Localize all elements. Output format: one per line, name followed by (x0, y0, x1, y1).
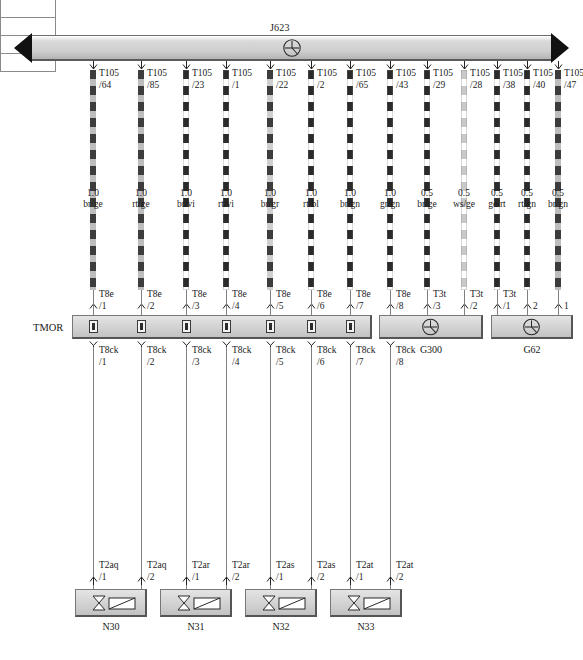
tmor-output-name: T8ck (317, 345, 337, 356)
lower-connector-pin: /2 (147, 301, 154, 312)
lower-connector-pin: /1 (99, 301, 106, 312)
top-connector-pin: /38 (503, 80, 515, 91)
injector-connector-name: T2ar (232, 560, 250, 571)
tmor-output-wire (93, 347, 94, 589)
wire-rt/vi (223, 70, 229, 290)
injector-connector-name: T2as (317, 560, 335, 571)
lower-connector-pin: /8 (396, 301, 403, 312)
top-connector-pin: /85 (147, 80, 159, 91)
tmor-output-pin: /4 (232, 357, 239, 368)
injector-connector-pin: /2 (147, 572, 154, 583)
ground-splice-icon (420, 317, 441, 337)
wire-color: rt/vi (204, 199, 248, 210)
connector-stub (558, 290, 559, 315)
tmor-contact[interactable] (222, 320, 231, 333)
connector-stub (93, 290, 94, 315)
top-connector-pin: /29 (433, 80, 445, 91)
wire-ge/rt (494, 70, 500, 290)
tmor-output-name: T8ck (276, 345, 296, 356)
tmor-output-wire (186, 347, 187, 589)
top-connector-name: T105 (564, 68, 583, 79)
wire-rt/ge (138, 70, 144, 290)
connector-stub (186, 290, 187, 315)
top-connector-pin: /28 (470, 80, 482, 91)
top-connector-pin: /64 (99, 80, 111, 91)
lower-connector-pin: /5 (276, 301, 283, 312)
top-connector-name: T105 (192, 68, 212, 79)
injector-connector-name: T2aq (147, 560, 167, 571)
tmor-output-pin: /2 (147, 357, 154, 368)
wire-gauge: 1.0 (250, 188, 290, 199)
connector-stub (390, 290, 391, 315)
top-connector-pin: /2 (317, 80, 324, 91)
lower-connector-name: T3t (470, 289, 483, 300)
connector-stub (497, 290, 498, 315)
wire-gauge: 1.0 (291, 188, 331, 199)
top-connector-name: T105 (232, 68, 252, 79)
tmor-contact[interactable] (137, 320, 146, 333)
tmor-output-name: T8ck (147, 345, 167, 356)
ground-splice-icon (281, 38, 303, 58)
top-connector-name: T105 (317, 68, 337, 79)
wire-color: br/gn (536, 199, 580, 210)
top-connector-name: T105 (533, 68, 553, 79)
tmor-contact[interactable] (307, 320, 316, 333)
lower-connector-pin: /4 (232, 301, 239, 312)
tmor-output-wire (141, 347, 142, 589)
lower-connector-pin: /3 (192, 301, 199, 312)
tmor-label: TMOR (33, 322, 63, 333)
injector-internal-trace (0, 0, 56, 18)
wire-gauge: 1.0 (166, 188, 206, 199)
connector-stub (270, 290, 271, 315)
bus-tap-arrow-icon (307, 61, 316, 70)
bus-tap-arrow-icon (423, 61, 432, 70)
tmor-output-pin: /7 (356, 357, 363, 368)
bus-left-arrow-icon (14, 33, 32, 63)
bus-right-arrow-icon (551, 33, 569, 63)
injector-pin-arrow-icon (266, 576, 275, 585)
injector-connector-pin: /1 (356, 572, 363, 583)
tmor-output-name: T8ck (232, 345, 252, 356)
tmor-contact[interactable] (346, 320, 355, 333)
tmor-output-name: T8ck (99, 345, 119, 356)
wire-rt/bl (308, 70, 314, 290)
ground-label-g300: G300 (379, 344, 483, 355)
injector-connector-pin: /1 (99, 572, 106, 583)
top-connector-pin: /1 (232, 80, 239, 91)
top-connector-pin: /43 (396, 80, 408, 91)
lower-connector-name: T8e (99, 289, 114, 300)
tmor-contact[interactable] (89, 320, 98, 333)
wire-br/gn (347, 70, 353, 290)
injector-connector-pin: /1 (192, 572, 199, 583)
top-connector-pin: /22 (276, 80, 288, 91)
injector-valve-icon (89, 594, 139, 613)
bus-tap-arrow-icon (554, 61, 563, 70)
wire-br/vi (183, 70, 189, 290)
top-connector-name: T105 (503, 68, 523, 79)
injector-pin-arrow-icon (89, 576, 98, 585)
tmor-output-wire (390, 347, 391, 589)
injector-connector-name: T2as (276, 560, 294, 571)
injector-connector-pin: /1 (276, 572, 283, 583)
tmor-contact[interactable] (266, 320, 275, 333)
bus-tap-arrow-icon (460, 61, 469, 70)
tmor-contact[interactable] (182, 320, 191, 333)
bus-tap-arrow-icon (523, 61, 532, 70)
bus-tap-arrow-icon (137, 61, 146, 70)
top-connector-name: T105 (433, 68, 453, 79)
tmor-output-wire (226, 347, 227, 589)
tmor-output-name: T8ck (192, 345, 212, 356)
top-connector-name: T105 (470, 68, 490, 79)
wire-gauge: 1.0 (121, 188, 161, 199)
top-connector-pin: /23 (192, 80, 204, 91)
wire-gr/gn (387, 70, 393, 290)
injector-connector-pin: /2 (396, 572, 403, 583)
tmor-output-pin: /1 (99, 357, 106, 368)
tmor-output-wire (311, 347, 312, 589)
injector-connector-pin: /2 (232, 572, 239, 583)
top-connector-name: T105 (147, 68, 167, 79)
top-connector-name: T105 (99, 68, 119, 79)
lower-connector-name: T8e (276, 289, 291, 300)
injector-label: N32 (245, 621, 317, 632)
lower-connector-pin: /2 (470, 301, 477, 312)
